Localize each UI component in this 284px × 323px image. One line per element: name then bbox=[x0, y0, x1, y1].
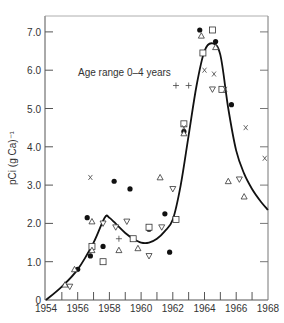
data-point-triangle-down bbox=[170, 187, 176, 192]
data-point-square bbox=[200, 50, 206, 56]
data-point-triangle-down bbox=[113, 225, 119, 230]
y-tick-label: 4.0 bbox=[27, 142, 41, 153]
data-point-x bbox=[88, 175, 92, 180]
data-point-circle-filled bbox=[127, 186, 132, 191]
plot-frame bbox=[45, 16, 268, 300]
data-point-triangle-down bbox=[146, 254, 152, 259]
data-point-square bbox=[219, 86, 225, 92]
data-point-x bbox=[203, 68, 207, 73]
data-point-circle-filled bbox=[229, 102, 234, 107]
x-axis-ticks: 19541956195819601962196419661968 bbox=[35, 292, 280, 314]
x-tick-label: 1964 bbox=[193, 303, 216, 314]
data-point-circle-filled bbox=[197, 27, 202, 32]
data-point-triangle-down bbox=[236, 177, 242, 182]
x-tick-label: 1954 bbox=[35, 303, 58, 314]
data-point-triangle-up bbox=[116, 247, 122, 252]
data-point-triangle-up bbox=[157, 174, 163, 179]
x-tick-label: 1966 bbox=[225, 303, 248, 314]
data-point-circle-filled bbox=[213, 39, 218, 44]
chart: 01.02.03.04.05.06.07.0 19541956195819601… bbox=[0, 0, 284, 323]
x-tick-label: 1968 bbox=[257, 303, 280, 314]
data-point-circle-filled bbox=[100, 244, 105, 249]
y-tick-label: 1.0 bbox=[27, 257, 41, 268]
data-point-triangle-down bbox=[124, 219, 130, 224]
y-tick-label: 5.0 bbox=[27, 104, 41, 115]
data-point-circle-filled bbox=[85, 215, 90, 220]
data-point-square bbox=[146, 224, 152, 230]
y-tick-label: 6.0 bbox=[27, 65, 41, 76]
data-point-triangle-up bbox=[89, 218, 95, 223]
data-point-triangle-down bbox=[159, 225, 165, 230]
y-tick-label: 7.0 bbox=[27, 27, 41, 38]
data-point-triangle-down bbox=[209, 87, 215, 92]
x-tick-label: 1956 bbox=[67, 303, 90, 314]
data-point-plus bbox=[173, 83, 179, 89]
data-point-plus bbox=[116, 236, 122, 242]
x-tick-label: 1958 bbox=[98, 303, 121, 314]
data-point-triangle-up bbox=[225, 178, 231, 183]
fitted-curve bbox=[46, 43, 268, 300]
data-point-square bbox=[173, 217, 179, 223]
y-tick-label: 2.0 bbox=[27, 218, 41, 229]
x-tick-label: 1962 bbox=[162, 303, 185, 314]
data-point-plus bbox=[186, 83, 192, 89]
data-point-triangle-up bbox=[241, 194, 247, 199]
y-axis-label: pCi (g Ca)⁻¹ bbox=[7, 130, 18, 185]
data-point-circle-filled bbox=[88, 253, 93, 258]
data-point-x bbox=[212, 72, 216, 77]
data-point-square bbox=[130, 236, 136, 242]
y-tick-label: 3.0 bbox=[27, 180, 41, 191]
data-point-circle-filled bbox=[112, 179, 117, 184]
data-point-circle-filled bbox=[162, 211, 167, 216]
data-point-triangle-up bbox=[198, 33, 204, 38]
data-point-x bbox=[263, 156, 267, 161]
data-point-square bbox=[100, 259, 106, 265]
data-point-x bbox=[244, 125, 248, 130]
data-point-triangle-up bbox=[135, 245, 141, 250]
data-point-circle-filled bbox=[167, 250, 172, 255]
data-point-square bbox=[209, 27, 215, 33]
data-point-square bbox=[181, 121, 187, 127]
chart-annotation: Age range 0–4 years bbox=[78, 67, 171, 78]
x-tick-label: 1960 bbox=[130, 303, 153, 314]
